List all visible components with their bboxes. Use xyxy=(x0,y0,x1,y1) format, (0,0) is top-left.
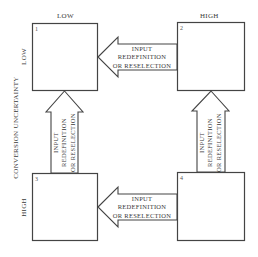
arrow-label-line: REDEFINITION xyxy=(106,53,178,61)
arrow-label-line: OR RESELECTION xyxy=(215,107,223,179)
quadrant-box-3 xyxy=(33,174,98,241)
arrow-label-line: INPUT xyxy=(52,107,60,179)
quadrant-number-3: 3 xyxy=(35,176,38,182)
arrow-label-line: OR RESELECTION xyxy=(106,212,178,220)
arrow-label-line: INPUT xyxy=(106,45,178,53)
row-label-high: HIGH xyxy=(21,196,28,220)
axis-title-conversion-uncertainty: CONVERSION UNCERTAINTY xyxy=(13,73,20,183)
arrow-3-to-1-label: INPUT REDEFINITION OR RESELECTION xyxy=(52,107,77,179)
arrow-4-to-2-label: INPUT REDEFINITION OR RESELECTION xyxy=(198,107,223,179)
arrow-label-line: OR RESELECTION xyxy=(106,62,178,70)
quadrant-number-4: 4 xyxy=(180,175,183,181)
row-label-low: LOW xyxy=(21,45,28,69)
quadrant-box-1 xyxy=(33,24,98,91)
arrow-label-line: REDEFINITION xyxy=(61,107,69,179)
quadrant-box-2 xyxy=(178,23,245,91)
quadrant-number-1: 1 xyxy=(35,26,38,32)
arrow-label-line: INPUT xyxy=(106,195,178,203)
column-label-high: HIGH xyxy=(200,13,219,20)
arrow-label-line: OR RESELECTION xyxy=(69,107,77,179)
arrow-2-to-1-label: INPUT REDEFINITION OR RESELECTION xyxy=(106,45,178,70)
column-label-low: LOW xyxy=(57,13,74,20)
quadrant-number-2: 2 xyxy=(180,25,183,31)
arrow-4-to-3-label: INPUT REDEFINITION OR RESELECTION xyxy=(106,195,178,220)
arrow-label-line: INPUT xyxy=(198,107,206,179)
quadrant-box-4 xyxy=(178,173,245,241)
arrow-label-line: REDEFINITION xyxy=(106,203,178,211)
arrow-label-line: REDEFINITION xyxy=(207,107,215,179)
